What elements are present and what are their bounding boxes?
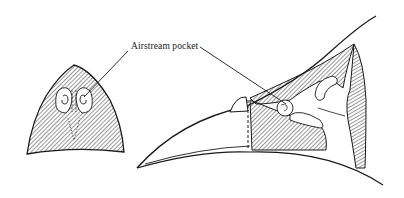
airstream-pocket-label: Airstream pocket: [131, 41, 198, 51]
leader-line-left: [84, 51, 128, 97]
cross-section-panel: [27, 51, 128, 154]
diagram: Airstream pocket: [0, 0, 404, 198]
leader-line-right: [200, 47, 286, 104]
diagram-drawing: [0, 0, 404, 198]
